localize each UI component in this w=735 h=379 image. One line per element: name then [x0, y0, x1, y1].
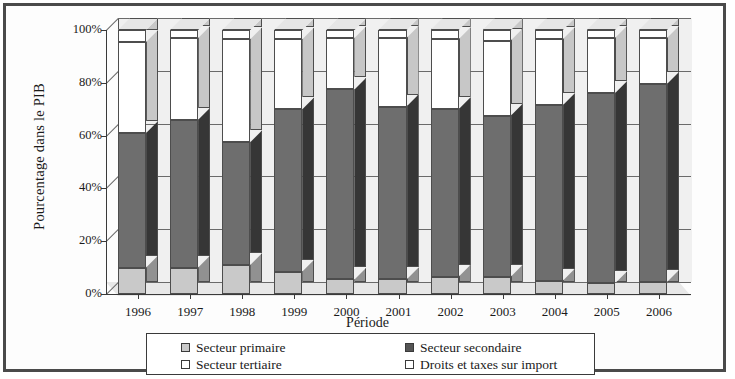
x-axis-tick-mark	[294, 294, 295, 299]
bar-segment-3[interactable]	[118, 30, 146, 42]
y-axis-tick-mark	[101, 30, 106, 31]
bar-segment-2[interactable]	[535, 39, 563, 105]
bar-segment-side-2	[146, 30, 158, 121]
y-axis-title: Pourcentage dans le PIB	[31, 42, 48, 272]
y-axis-tick-label: 100%	[73, 22, 102, 37]
bar-segment-side-1	[302, 97, 314, 259]
bar-segment-2[interactable]	[274, 39, 302, 109]
bar-segment-3[interactable]	[639, 30, 667, 38]
bar-stack[interactable]	[483, 30, 511, 294]
y-axis-tick-label: 80%	[79, 75, 102, 90]
bar-stack[interactable]	[431, 30, 459, 294]
legend-swatch-icon	[181, 360, 190, 369]
legend-swatch-icon	[405, 343, 414, 352]
bar-segment-1[interactable]	[587, 93, 615, 283]
x-axis-tick-mark	[399, 294, 400, 299]
bar-segment-2[interactable]	[170, 38, 198, 120]
x-axis-tick-mark	[138, 294, 139, 299]
bar-segment-3[interactable]	[535, 30, 563, 39]
y-axis-tick-label: 0%	[85, 286, 102, 301]
bar-segment-0[interactable]	[378, 279, 406, 294]
chart-frame: Pourcentage dans le PIB 0%20%40%60%80%10…	[3, 3, 726, 372]
bar-segment-2[interactable]	[118, 42, 146, 133]
bar-segment-1[interactable]	[326, 89, 354, 279]
bar-stack[interactable]	[274, 30, 302, 294]
bar-segment-2[interactable]	[483, 41, 511, 116]
bar-segment-3[interactable]	[431, 30, 459, 39]
bar-segment-side-1	[615, 81, 627, 271]
bar-segment-3[interactable]	[274, 30, 302, 39]
y-axis-line	[106, 30, 107, 294]
bar-segment-side-1	[459, 97, 471, 265]
y-axis-tick-label: 20%	[79, 233, 102, 248]
legend-swatch-icon	[181, 343, 190, 352]
bar-segment-0[interactable]	[170, 268, 198, 294]
y-axis-tick-mark	[101, 188, 106, 189]
bar-segment-1[interactable]	[639, 84, 667, 282]
bar-stack[interactable]	[222, 30, 250, 294]
x-axis-tick-mark	[555, 294, 556, 299]
bar-segment-0[interactable]	[274, 272, 302, 294]
bar-segment-side-2	[198, 26, 210, 108]
bar-segment-3[interactable]	[587, 30, 615, 38]
bar-segment-1[interactable]	[378, 107, 406, 280]
chart-legend: Secteur primaireSecteur secondaireSecteu…	[146, 333, 595, 375]
x-axis-tick-mark	[242, 294, 243, 299]
x-axis-title: Période	[6, 315, 729, 331]
gridline-depth-edge	[106, 176, 119, 189]
legend-label: Droits et taxes sur import	[420, 355, 557, 374]
bar-segment-1[interactable]	[274, 109, 302, 271]
bar-segment-3[interactable]	[378, 30, 406, 38]
bar-segment-1[interactable]	[170, 120, 198, 268]
y-axis-tick-mark	[101, 83, 106, 84]
bar-segment-side-2	[302, 27, 314, 97]
legend-entry[interactable]: Secteur tertiaire	[181, 355, 282, 374]
bar-stack[interactable]	[587, 30, 615, 294]
bar-segment-1[interactable]	[535, 105, 563, 281]
bar-segment-0[interactable]	[431, 277, 459, 294]
bar-segment-0[interactable]	[639, 282, 667, 294]
bar-stack[interactable]	[326, 30, 354, 294]
bar-segment-2[interactable]	[222, 39, 250, 142]
plot-area: 0%20%40%60%80%100% 199619971998199920002…	[106, 18, 691, 294]
bar-segment-1[interactable]	[483, 116, 511, 277]
bar-stack[interactable]	[378, 30, 406, 294]
bar-segment-2[interactable]	[639, 38, 667, 84]
y-axis-tick-mark	[101, 294, 106, 295]
bar-segment-side-1	[146, 121, 158, 256]
bar-segment-0[interactable]	[222, 265, 250, 294]
bar-segment-2[interactable]	[326, 38, 354, 89]
bar-stack[interactable]	[639, 30, 667, 294]
y-axis-tick-label: 60%	[79, 128, 102, 143]
bar-segment-2[interactable]	[587, 38, 615, 93]
bar-segment-0[interactable]	[483, 277, 511, 294]
gridline-depth-edge	[106, 124, 119, 137]
bar-segment-1[interactable]	[118, 133, 146, 268]
bar-segment-side-1	[407, 95, 419, 268]
bar-segment-1[interactable]	[431, 109, 459, 277]
bar-segment-side-2	[511, 29, 523, 104]
bar-segment-3[interactable]	[326, 30, 354, 38]
bar-stack[interactable]	[118, 30, 146, 294]
bar-stack[interactable]	[535, 30, 563, 294]
bar-segment-side-1	[354, 77, 366, 267]
bar-segment-0[interactable]	[326, 279, 354, 294]
bar-segment-2[interactable]	[431, 39, 459, 109]
bar-segment-3[interactable]	[222, 30, 250, 39]
legend-swatch-icon	[405, 360, 414, 369]
bar-segment-0[interactable]	[535, 281, 563, 294]
bar-segment-0[interactable]	[118, 268, 146, 294]
bar-segment-0[interactable]	[587, 283, 615, 294]
bar-segment-2[interactable]	[378, 38, 406, 107]
y-axis-tick-mark	[101, 136, 106, 137]
x-axis-tick-mark	[607, 294, 608, 299]
bar-stack[interactable]	[170, 30, 198, 294]
bar-segment-side-1	[667, 72, 679, 270]
y-axis-tick-label: 40%	[79, 180, 102, 195]
bar-segment-1[interactable]	[222, 142, 250, 265]
x-axis-tick-mark	[190, 294, 191, 299]
legend-entry[interactable]: Droits et taxes sur import	[405, 355, 557, 374]
bar-segment-side-2	[250, 27, 262, 130]
bar-segment-3[interactable]	[170, 30, 198, 38]
bar-segment-3[interactable]	[483, 30, 511, 41]
